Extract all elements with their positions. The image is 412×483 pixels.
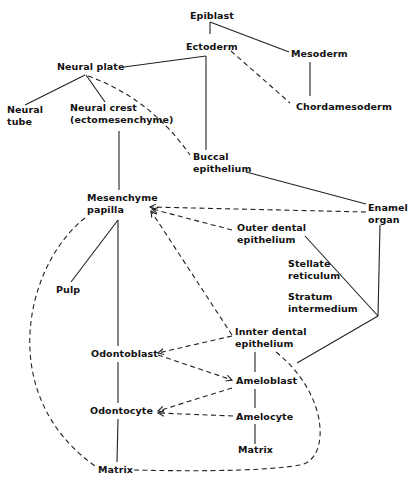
node-ameloblast: Ameloblast [236, 375, 297, 387]
node-label-line-2: papilla [87, 204, 158, 216]
node-mesenchyme-papilla: Mesenchyme papilla [87, 192, 158, 216]
edge-mesenchyme-pulp [71, 220, 118, 282]
node-epiblast: Epiblast [190, 10, 234, 22]
node-label-line-1: Outer dental [237, 222, 306, 234]
edge-neuralplate-neuraltube [25, 75, 85, 105]
node-label-line-1: Neural [7, 104, 43, 116]
node-buccal-epithelium: Buccal epithelium [193, 151, 251, 175]
node-label-line-2: intermedium [288, 303, 358, 315]
node-pulp: Pulp [56, 284, 80, 296]
node-mesoderm: Mesoderm [291, 48, 348, 60]
node-stratum-intermedium: Stratum intermedium [288, 291, 358, 315]
edge-outerdental-mesenchyme [152, 209, 232, 230]
node-label-line-2: epithelium [237, 234, 306, 246]
node-label: Amelocyte [236, 411, 293, 423]
node-label: Odontoblast [91, 348, 158, 360]
node-label-line-1: Stellate [288, 258, 340, 270]
node-label-line-1: Buccal [193, 151, 251, 163]
node-label-line-1: Enamel [368, 202, 408, 214]
node-label-line-1: Stratum [288, 291, 358, 303]
edge-innerdental-odontoblast [158, 336, 232, 353]
edge-enamelorgan-junction [378, 225, 380, 316]
node-ectoderm: Ectoderm [186, 41, 238, 53]
node-outer-dental-epithelium: Outer dental epithelium [237, 222, 306, 246]
edge-ectoderm-neuralplate [124, 56, 206, 67]
node-label-line-2: tube [7, 116, 43, 128]
node-label-line-1: Neural crest [70, 102, 174, 114]
node-label-line-2: organ [368, 214, 408, 226]
node-label: Matrix [238, 444, 273, 456]
node-label: Chordamesoderm [296, 101, 392, 113]
node-label-line-2: epithelium [235, 338, 307, 350]
node-enamel-organ: Enamel organ [368, 202, 408, 226]
node-amelocyte: Amelocyte [236, 411, 293, 423]
edge-buccal-enamelorgan [246, 172, 366, 204]
edge-odontocyte-matrix [117, 419, 118, 462]
tooth-development-diagram: Epiblast Ectoderm Mesoderm Chordamesoder… [0, 0, 412, 483]
node-label: Ameloblast [236, 375, 297, 387]
node-label: Odontocyte [90, 405, 153, 417]
node-neural-tube: Neural tube [7, 104, 43, 128]
edge-amelocyte-odontocyte [158, 413, 233, 416]
node-label: Matrix [98, 464, 133, 476]
node-label: Ectoderm [186, 41, 238, 53]
node-stellate-reticulum: Stellate reticulum [288, 258, 340, 282]
edge-mesenchyme-matrix [30, 218, 95, 466]
node-inner-dental-epithelium: Innter dental epithelium [235, 326, 307, 350]
node-neural-crest: Neural crest (ectomesenchyme) [70, 102, 174, 126]
node-odontocyte: Odontocyte [90, 405, 153, 417]
node-chordamesoderm: Chordamesoderm [296, 101, 392, 113]
edge-enamelorgan-mesenchyme [150, 207, 366, 212]
node-label: Epiblast [190, 10, 234, 22]
node-label: Mesoderm [291, 48, 348, 60]
node-label: Neural plate [57, 61, 124, 73]
edge-junction-innerdental [297, 316, 378, 363]
edge-odontoblast-ameloblast [158, 355, 232, 380]
edge-ectoderm-chordamesoderm [231, 51, 290, 103]
node-label-line-2: epithelium [193, 163, 251, 175]
node-label-line-1: Innter dental [235, 326, 307, 338]
node-label: Pulp [56, 284, 80, 296]
node-neural-plate: Neural plate [57, 61, 124, 73]
node-label-line-2: (ectomesenchyme) [70, 114, 174, 126]
node-label-line-1: Mesenchyme [87, 192, 158, 204]
edge-neuralplate-neuralcrest [86, 75, 105, 102]
node-odontoblast: Odontoblast [91, 348, 158, 360]
node-label-line-2: reticulum [288, 270, 340, 282]
edge-innerdental-mesenchyme [151, 211, 232, 335]
node-matrix-dentin: Matrix [98, 464, 133, 476]
node-matrix-enamel: Matrix [238, 444, 273, 456]
edge-ameloblast-odontocyte [158, 388, 232, 411]
